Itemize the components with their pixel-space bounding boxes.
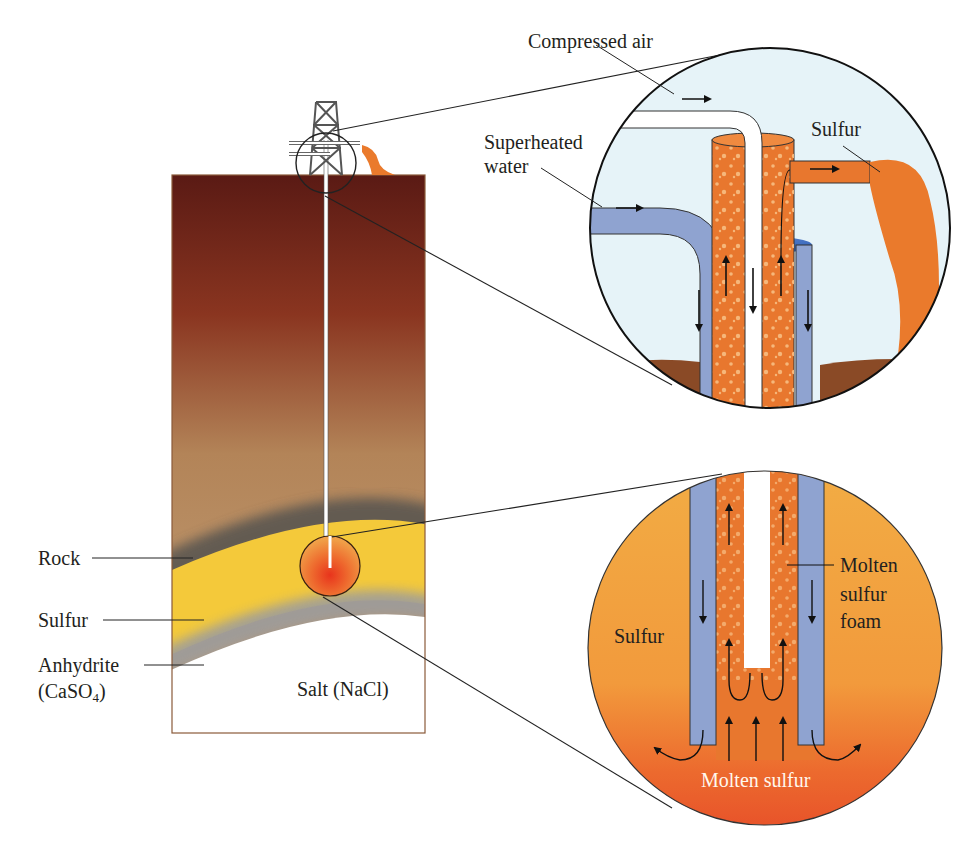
label-water: water — [484, 155, 528, 177]
label-salt: Salt (NaCl) — [297, 678, 389, 700]
label-anhydrite-formula: (CaSO4) — [38, 680, 106, 709]
upper-inset — [541, 45, 960, 430]
sulfur-spill-icon — [362, 145, 395, 175]
frasch-process-diagram: Rock Sulfur Anhydrite (CaSO4) Salt (NaCl… — [0, 0, 967, 852]
label-rock: Rock — [38, 547, 80, 569]
label-superheated: Superheated — [484, 131, 583, 153]
label-compressed-air: Compressed air — [528, 30, 653, 52]
label-sulfur-layer: Sulfur — [38, 609, 88, 631]
label-molten-foam-3: foam — [840, 610, 881, 632]
label-molten-foam-2: sulfur — [840, 583, 887, 605]
label-anhydrite: Anhydrite — [38, 654, 119, 676]
label-molten-sulfur: Molten sulfur — [701, 769, 810, 791]
cross-section — [150, 140, 450, 740]
label-sulfur-deposit: Sulfur — [614, 625, 664, 647]
label-sulfur-out: Sulfur — [811, 118, 861, 140]
label-molten-foam-1: Molten — [840, 554, 898, 576]
